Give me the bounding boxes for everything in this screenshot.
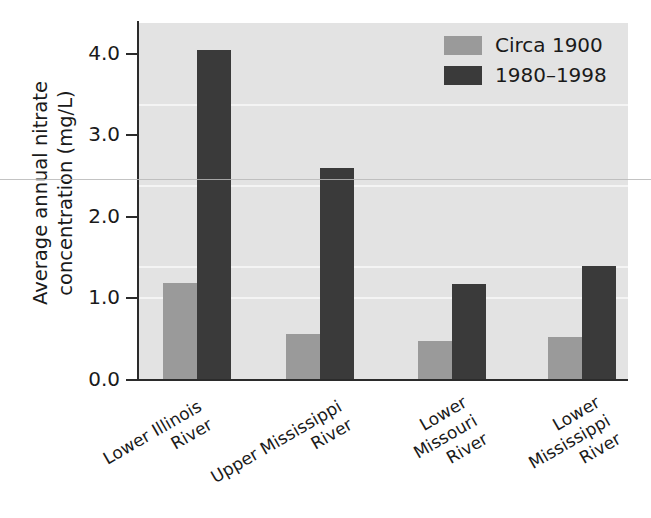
legend-swatch-1980-1998 bbox=[444, 66, 482, 85]
page-bottom-edge bbox=[0, 512, 651, 518]
bar-circa1900-lower-illinois bbox=[163, 283, 197, 379]
scan-artifact-line bbox=[0, 179, 651, 180]
bar-1980-1998-lower-illinois bbox=[197, 50, 231, 379]
legend-label-circa-1900: Circa 1900 bbox=[495, 35, 603, 55]
y-tick-mark-4 bbox=[126, 53, 137, 55]
plot-area: Circa 1900 1980–1998 bbox=[139, 23, 628, 379]
y-tick-mark-1 bbox=[126, 297, 137, 299]
y-axis-title: Average annual nitrate concentration (mg… bbox=[28, 28, 78, 358]
bar-1980-1998-lower-missouri bbox=[452, 284, 486, 379]
bar-chart-figure: Circa 1900 1980–1998 4.0 3.0 2.0 1.0 0.0… bbox=[0, 0, 651, 518]
legend: Circa 1900 1980–1998 bbox=[444, 30, 624, 90]
y-tick-mark-0 bbox=[126, 379, 137, 381]
x-tick-label-lower-illinois: Lower Illinois River bbox=[56, 396, 216, 512]
legend-swatch-circa-1900 bbox=[444, 36, 482, 55]
x-tick-label-upper-mississippi: Upper Mississippi River bbox=[196, 396, 356, 512]
x-tick-label-lower-mississippi: Lower Mississippi River bbox=[454, 392, 624, 518]
bar-1980-1998-lower-mississippi bbox=[582, 266, 616, 379]
legend-item-circa-1900: Circa 1900 bbox=[444, 30, 624, 60]
bar-circa1900-lower-missouri bbox=[418, 341, 452, 379]
bar-circa1900-lower-mississippi bbox=[548, 337, 582, 379]
y-tick-mark-2 bbox=[126, 216, 137, 218]
y-tick-mark-3 bbox=[126, 134, 137, 136]
bar-1980-1998-upper-mississippi bbox=[320, 168, 354, 379]
x-tick-label-lower-missouri: Lower Missouri River bbox=[321, 392, 491, 518]
x-axis-line bbox=[137, 379, 628, 381]
y-tick-label-0: 0.0 bbox=[64, 369, 120, 389]
legend-label-1980-1998: 1980–1998 bbox=[495, 65, 607, 85]
bar-circa1900-upper-mississippi bbox=[286, 334, 320, 379]
y-axis-line bbox=[137, 21, 139, 381]
legend-item-1980-1998: 1980–1998 bbox=[444, 60, 624, 90]
